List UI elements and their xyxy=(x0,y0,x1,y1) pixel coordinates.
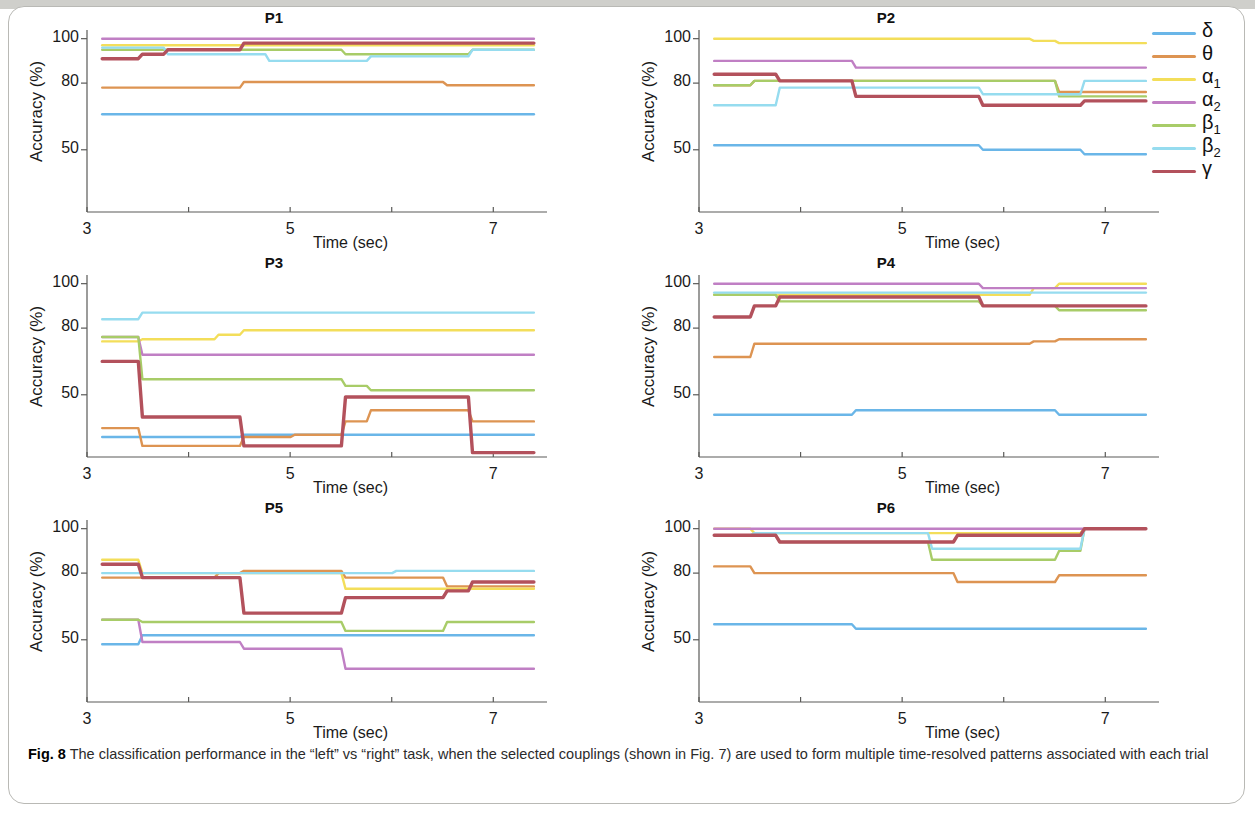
legend-item: α1 xyxy=(1152,68,1247,92)
series-line-β₁ xyxy=(102,620,534,631)
figure-caption: Fig. 8 The classification performance in… xyxy=(28,744,1220,765)
series-line-γ xyxy=(102,361,534,452)
legend-label-subscript: 2 xyxy=(1214,145,1221,160)
panel-svg xyxy=(621,7,1233,252)
legend-item: δ xyxy=(1152,22,1247,46)
series-line-α₁ xyxy=(714,39,1146,43)
legend-swatch-line xyxy=(1152,55,1196,58)
panel-svg xyxy=(9,7,621,252)
series-line-α₂ xyxy=(102,620,534,669)
series-line-β₁ xyxy=(102,337,534,390)
figure-page: P1Accuracy (%)1008050357Time (sec)P2Accu… xyxy=(0,0,1255,813)
legend-swatch-line xyxy=(1152,147,1196,150)
series-line-α₁ xyxy=(102,330,534,341)
legend-swatch-line xyxy=(1152,101,1196,104)
panel-p4: P4Accuracy (%)1008050357Time (sec) xyxy=(621,252,1233,497)
panel-svg xyxy=(9,252,621,497)
panel-p2: P2Accuracy (%)1008050357Time (sec) xyxy=(621,7,1233,252)
series-line-β₂ xyxy=(714,81,1146,105)
series-line-β₂ xyxy=(102,313,534,320)
legend-item: γ xyxy=(1152,160,1247,184)
panel-p3: P3Accuracy (%)1008050357Time (sec) xyxy=(9,252,621,497)
series-line-θ xyxy=(102,82,534,88)
legend-item: α2 xyxy=(1152,91,1247,115)
series-line-δ xyxy=(714,145,1146,154)
panel-svg xyxy=(9,497,621,742)
series-line-δ xyxy=(714,410,1146,415)
legend-swatch-line xyxy=(1152,78,1196,81)
series-line-γ xyxy=(714,297,1146,317)
legend-item: β1 xyxy=(1152,114,1247,138)
caption-text: The classification performance in the “l… xyxy=(66,746,1209,762)
series-line-θ xyxy=(714,339,1146,357)
caption-label: Fig. 8 xyxy=(28,746,66,762)
panel-svg xyxy=(621,497,1233,742)
legend: δθα1α2β1β2γ xyxy=(1152,22,1247,192)
series-line-δ xyxy=(714,624,1146,629)
panel-svg xyxy=(621,252,1233,497)
legend-label: θ xyxy=(1202,42,1213,65)
figure-plot-area: P1Accuracy (%)1008050357Time (sec)P2Accu… xyxy=(9,7,1244,737)
panel-p6: P6Accuracy (%)1008050357Time (sec) xyxy=(621,497,1233,742)
legend-item: β2 xyxy=(1152,137,1247,161)
legend-swatch-line xyxy=(1152,170,1196,173)
legend-swatch-line xyxy=(1152,32,1196,35)
legend-label: γ xyxy=(1202,157,1212,180)
series-line-θ xyxy=(714,566,1146,582)
series-line-α₂ xyxy=(714,61,1146,68)
panel-p1: P1Accuracy (%)1008050357Time (sec) xyxy=(9,7,621,252)
legend-swatch-line xyxy=(1152,124,1196,127)
panel-p5: P5Accuracy (%)1008050357Time (sec) xyxy=(9,497,621,742)
legend-label: δ xyxy=(1202,19,1213,42)
legend-item: θ xyxy=(1152,45,1247,69)
